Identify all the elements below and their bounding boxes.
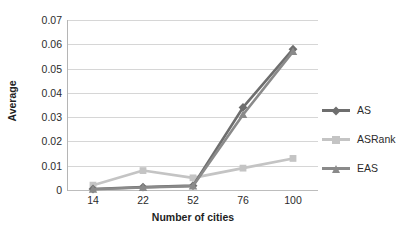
y-tick-label: 0.03: [18, 112, 62, 122]
x-tick-label: 14: [73, 194, 113, 206]
legend-label: EAS: [357, 162, 378, 174]
chart-legend: AS ASRank EAS: [322, 100, 406, 187]
series-line: [93, 52, 293, 190]
y-tick-label: 0.02: [18, 136, 62, 146]
legend-item-asrank[interactable]: ASRank: [322, 129, 406, 149]
series-container: [68, 20, 318, 190]
legend-key-as: [322, 104, 350, 116]
x-axis-title: Number of cities: [68, 211, 318, 223]
square-marker: [240, 165, 247, 172]
legend-item-eas[interactable]: EAS: [322, 158, 406, 178]
y-tick-label: 0.01: [18, 161, 62, 171]
y-axis-tick-labels: 0.07 0.06 0.05 0.04 0.03 0.02 0.01 0: [16, 20, 62, 190]
diamond-marker-icon: [331, 106, 340, 115]
y-tick-label: 0.07: [18, 15, 62, 25]
x-tick-label: 76: [223, 194, 263, 206]
x-axis-tick-labels: 14 22 52 76 100: [68, 194, 318, 210]
triangle-marker-icon: [332, 165, 340, 173]
legend-key-asrank: [322, 133, 350, 145]
legend-item-as[interactable]: AS: [322, 100, 406, 120]
series-as: [89, 45, 298, 194]
y-axis-title: Average: [6, 61, 18, 141]
square-marker: [290, 155, 297, 162]
legend-label: ASRank: [357, 133, 396, 145]
series-eas: [89, 47, 298, 192]
line-chart: 0.07 0.06 0.05 0.04 0.03 0.02 0.01 0 14 …: [0, 0, 406, 243]
square-marker: [140, 167, 147, 174]
y-tick-label: 0: [18, 185, 62, 195]
y-tick-label: 0.05: [18, 64, 62, 74]
x-tick-label: 22: [123, 194, 163, 206]
square-marker-icon: [332, 136, 340, 144]
plot-area: [68, 20, 318, 190]
y-tick-label: 0.06: [18, 39, 62, 49]
series-line: [93, 49, 293, 189]
y-tick-label: 0.04: [18, 88, 62, 98]
x-axis-baseline: [68, 190, 318, 191]
x-tick-label: 100: [273, 194, 313, 206]
x-tick-label: 52: [173, 194, 213, 206]
legend-label: AS: [357, 104, 371, 116]
legend-key-eas: [322, 162, 350, 174]
